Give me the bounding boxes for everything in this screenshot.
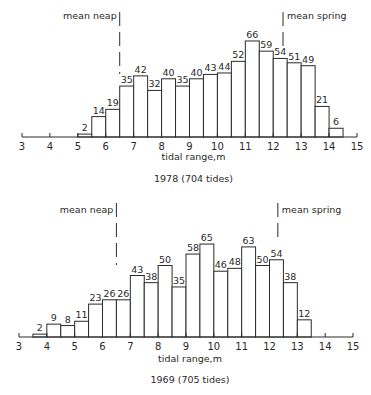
histogram-bar (186, 254, 200, 337)
bar-value-label: 46 (215, 259, 227, 270)
histogram-bar (301, 66, 315, 137)
bar-value-label: 49 (302, 54, 314, 65)
x-tick-label: 14 (319, 341, 332, 352)
bar-value-label: 50 (256, 254, 268, 265)
bar-value-label: 54 (270, 248, 282, 259)
histogram-bar (134, 76, 148, 137)
x-tick-label: 13 (295, 141, 308, 152)
histogram-bar (106, 109, 120, 137)
x-tick-label: 7 (130, 141, 136, 152)
bar-value-label: 35 (176, 74, 188, 85)
histogram-bar (158, 266, 172, 338)
histogram-bar (162, 79, 176, 137)
histogram-bar (176, 86, 190, 137)
chart-caption: 1969 (705 tides) (151, 374, 230, 385)
bar-value-label: 2 (37, 322, 43, 333)
histogram-bar (231, 61, 245, 137)
histogram-bar (259, 51, 273, 137)
bar-value-label: 23 (89, 292, 101, 303)
mean-spring-label: mean spring (287, 10, 347, 21)
bar-value-label: 26 (103, 288, 115, 299)
bar-value-label: 38 (284, 271, 296, 282)
bar-value-label: 12 (298, 308, 310, 319)
histogram-bar (200, 244, 214, 337)
histogram-bar (270, 260, 284, 337)
histogram-bar (283, 283, 297, 337)
x-axis-label: tidal range,m (158, 353, 222, 364)
histogram-bar (190, 79, 204, 137)
histogram-bar (315, 106, 329, 137)
histogram-bar (203, 74, 217, 137)
x-tick-label: 15 (347, 341, 360, 352)
histogram-bar (130, 276, 144, 337)
histogram-bar (242, 247, 256, 337)
bar-value-label: 66 (246, 29, 258, 40)
bar-value-label: 48 (229, 256, 241, 267)
x-tick-label: 5 (71, 341, 77, 352)
x-tick-label: 14 (323, 141, 336, 152)
bar-value-label: 58 (187, 242, 199, 253)
bar-value-label: 51 (288, 51, 300, 62)
bar-value-label: 9 (51, 312, 57, 323)
histogram-1969: 2981123262643385035586546486350543812345… (16, 203, 360, 385)
histogram-bar (61, 326, 75, 337)
x-tick-label: 6 (103, 141, 109, 152)
histogram-bar (217, 73, 231, 137)
bar-value-label: 26 (117, 288, 129, 299)
x-tick-label: 13 (291, 341, 304, 352)
bar-value-label: 40 (163, 67, 175, 78)
bar-value-label: 19 (107, 97, 119, 108)
bar-value-label: 8 (65, 314, 71, 325)
bar-value-label: 11 (76, 309, 88, 320)
histogram-bar (214, 271, 228, 337)
histogram-bar (228, 268, 242, 337)
bar-value-label: 43 (131, 264, 143, 275)
histogram-bar (103, 300, 117, 337)
histogram-bar (144, 283, 158, 337)
bar-value-label: 65 (201, 232, 213, 243)
histogram-bar (89, 304, 103, 337)
x-tick-label: 12 (267, 141, 280, 152)
bar-value-label: 35 (121, 74, 133, 85)
histogram-bar (92, 117, 106, 137)
x-tick-label: 11 (235, 341, 248, 352)
bar-value-label: 2 (82, 122, 88, 133)
mean-spring-label: mean spring (282, 204, 342, 215)
bar-value-label: 32 (149, 78, 161, 89)
mean-neap-label: mean neap (60, 204, 114, 215)
x-tick-label: 10 (207, 341, 220, 352)
histogram-bar (297, 320, 311, 337)
bar-value-label: 38 (145, 271, 157, 282)
bar-value-label: 52 (232, 49, 244, 60)
bar-value-label: 54 (274, 46, 286, 57)
histogram-bar (75, 321, 89, 337)
bar-value-label: 6 (333, 116, 339, 127)
bar-value-label: 42 (135, 64, 147, 75)
histogram-bar (245, 41, 259, 137)
histogram-bar (273, 58, 287, 137)
x-tick-label: 3 (16, 341, 22, 352)
x-tick-label: 12 (263, 341, 276, 352)
histogram-1978: 2141935423240354043445266595451492163456… (19, 10, 364, 184)
x-tick-label: 15 (351, 141, 364, 152)
bar-value-label: 35 (173, 275, 185, 286)
histogram-bar (172, 287, 186, 337)
histogram-figure: 2141935423240354043445266595451492163456… (0, 0, 371, 395)
mean-neap-label: mean neap (63, 10, 117, 21)
x-tick-label: 3 (19, 141, 25, 152)
bar-value-label: 50 (159, 254, 171, 265)
bar-value-label: 21 (316, 94, 328, 105)
histogram-bar (116, 300, 130, 337)
histogram-bar (287, 63, 301, 137)
bar-value-label: 14 (93, 105, 105, 116)
bar-value-label: 40 (190, 67, 202, 78)
histogram-bar (47, 324, 61, 337)
x-tick-label: 9 (183, 341, 189, 352)
bar-value-label: 43 (204, 62, 216, 73)
histogram-bar (256, 266, 270, 338)
x-tick-label: 4 (47, 141, 53, 152)
x-axis-label: tidal range,m (162, 151, 226, 162)
x-tick-label: 6 (99, 341, 105, 352)
bar-value-label: 44 (218, 61, 230, 72)
bar-value-label: 63 (243, 235, 255, 246)
